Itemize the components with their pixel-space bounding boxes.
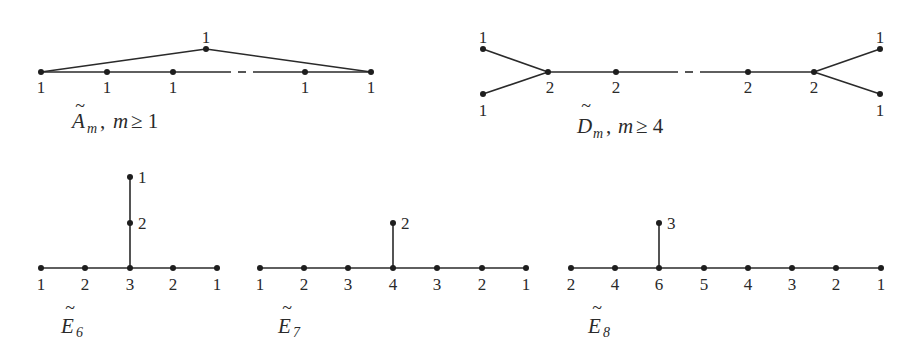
node bbox=[170, 69, 176, 75]
diagram-e6-tilde: 2 1 1 2 3 2 1 ~ E 6 bbox=[37, 168, 222, 340]
svg-text:m: m bbox=[113, 109, 128, 133]
node-label: 1 bbox=[37, 275, 46, 294]
node bbox=[434, 265, 440, 271]
node bbox=[523, 265, 529, 271]
node bbox=[833, 265, 839, 271]
node bbox=[479, 265, 485, 271]
node-label: 1 bbox=[877, 275, 886, 294]
caption-e6-tilde: ~ E 6 bbox=[60, 298, 83, 340]
node-label: 1 bbox=[202, 28, 211, 47]
node-label: 2 bbox=[401, 214, 410, 233]
node-label: 1 bbox=[213, 275, 222, 294]
caption-e7-tilde: ~ E 7 bbox=[277, 298, 301, 340]
node-label: 2 bbox=[546, 78, 555, 97]
node-label: 2 bbox=[478, 275, 487, 294]
extended-dynkin-diagrams: 1 1 1 1 1 1 ~ A m , m ≥ 1 1 1 1 1 bbox=[0, 0, 916, 354]
node bbox=[656, 220, 662, 226]
node-label: 1 bbox=[256, 275, 265, 294]
svg-text:m: m bbox=[593, 126, 603, 141]
node bbox=[104, 69, 110, 75]
node bbox=[214, 265, 220, 271]
node bbox=[656, 265, 662, 271]
node-label: 4 bbox=[611, 275, 620, 294]
node bbox=[302, 69, 308, 75]
svg-text:E: E bbox=[277, 314, 291, 338]
node-label: 2 bbox=[169, 275, 178, 294]
edge bbox=[206, 49, 371, 72]
node bbox=[127, 174, 133, 180]
svg-text:,: , bbox=[606, 114, 611, 138]
node-label: 1 bbox=[138, 168, 147, 187]
svg-text:D: D bbox=[576, 114, 592, 138]
node bbox=[38, 265, 44, 271]
diagram-e7-tilde: 2 1 2 3 4 3 2 1 ~ E 7 bbox=[256, 214, 531, 340]
node bbox=[127, 265, 133, 271]
node bbox=[878, 265, 884, 271]
node bbox=[82, 265, 88, 271]
node bbox=[170, 265, 176, 271]
node bbox=[612, 265, 618, 271]
svg-text:E: E bbox=[587, 314, 601, 338]
tilde-mark: ~ bbox=[581, 96, 591, 116]
node-label: 2 bbox=[744, 78, 753, 97]
node bbox=[568, 265, 574, 271]
node bbox=[613, 69, 619, 75]
node-label: 4 bbox=[744, 275, 753, 294]
node-label: 1 bbox=[103, 78, 112, 97]
node bbox=[390, 220, 396, 226]
node-label: 1 bbox=[479, 101, 488, 120]
diagram-e8-tilde: 3 2 4 6 5 4 3 2 1 ~ E 8 bbox=[567, 214, 886, 340]
caption-a-tilde: ~ A m , m ≥ 1 bbox=[70, 96, 158, 136]
caption-d-tilde: ~ D m , m ≥ 4 bbox=[576, 96, 664, 141]
diagram-d-tilde: 1 1 1 1 2 2 2 2 ~ D m , m ≥ 4 bbox=[479, 28, 885, 141]
svg-text:6: 6 bbox=[76, 325, 83, 340]
edge bbox=[483, 49, 548, 72]
edge bbox=[814, 49, 880, 72]
node-label: 2 bbox=[567, 275, 576, 294]
node-label: 6 bbox=[655, 275, 664, 294]
node bbox=[701, 265, 707, 271]
node bbox=[390, 265, 396, 271]
node bbox=[745, 265, 751, 271]
edge bbox=[814, 72, 880, 94]
edge bbox=[41, 49, 206, 72]
node bbox=[877, 91, 883, 97]
node bbox=[301, 265, 307, 271]
node-label: 1 bbox=[876, 28, 885, 47]
node-label: 4 bbox=[389, 275, 398, 294]
caption-e8-tilde: ~ E 8 bbox=[587, 298, 610, 340]
node-label: 1 bbox=[367, 78, 376, 97]
node-label: 2 bbox=[300, 275, 309, 294]
node-label: 3 bbox=[126, 275, 135, 294]
node-label: 2 bbox=[81, 275, 90, 294]
node-label: 1 bbox=[876, 101, 885, 120]
node bbox=[745, 69, 751, 75]
node bbox=[257, 265, 263, 271]
svg-text:≥ 4: ≥ 4 bbox=[636, 114, 664, 138]
svg-text:,: , bbox=[100, 109, 105, 133]
node bbox=[368, 69, 374, 75]
node-label: 3 bbox=[344, 275, 353, 294]
svg-text:m: m bbox=[87, 121, 97, 136]
node-label: 3 bbox=[667, 214, 676, 233]
node bbox=[127, 220, 133, 226]
node-label: 1 bbox=[522, 275, 531, 294]
node-label: 3 bbox=[433, 275, 442, 294]
node-label: 2 bbox=[810, 78, 819, 97]
svg-text:8: 8 bbox=[603, 325, 610, 340]
node bbox=[345, 265, 351, 271]
node-label: 1 bbox=[301, 78, 310, 97]
svg-text:≥ 1: ≥ 1 bbox=[131, 109, 158, 133]
svg-text:E: E bbox=[60, 314, 74, 338]
svg-text:m: m bbox=[618, 114, 633, 138]
node-label: 5 bbox=[700, 275, 709, 294]
node-label: 2 bbox=[612, 78, 621, 97]
node-label: 1 bbox=[479, 28, 488, 47]
node-label: 1 bbox=[37, 78, 46, 97]
node bbox=[38, 69, 44, 75]
node-label: 2 bbox=[832, 275, 841, 294]
edge bbox=[483, 72, 548, 94]
node bbox=[811, 69, 817, 75]
svg-text:A: A bbox=[70, 109, 85, 133]
node-label: 2 bbox=[138, 214, 147, 233]
